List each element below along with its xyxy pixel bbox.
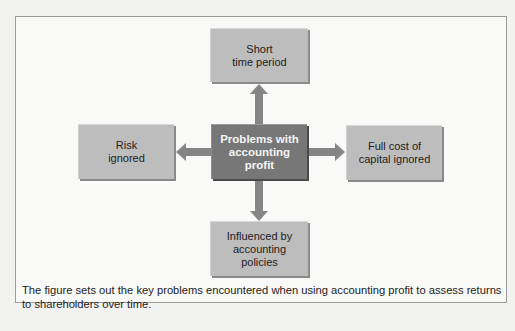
figure-caption: The figure sets out the key problems enc… <box>22 283 502 311</box>
node-problems-with-accounting-profit: Problems with accounting profit <box>211 124 307 179</box>
node-risk-ignored: Risk ignored <box>78 124 174 179</box>
arrow-left-icon <box>176 142 211 162</box>
node-short-time-period: Short time period <box>210 28 308 82</box>
node-label: Risk ignored <box>108 139 145 165</box>
node-label: Influenced by accounting policies <box>227 230 292 269</box>
node-full-cost-of-capital-ignored: Full cost of capital ignored <box>346 125 442 180</box>
node-influenced-by-accounting-policies: Influenced by accounting policies <box>210 221 308 276</box>
arrow-up-icon <box>249 84 269 125</box>
arrow-down-icon <box>249 181 269 221</box>
arrow-right-icon <box>308 142 345 162</box>
center-label: Problems with accounting profit <box>220 133 299 172</box>
node-label: Full cost of capital ignored <box>359 140 431 166</box>
node-label: Short time period <box>232 43 286 69</box>
